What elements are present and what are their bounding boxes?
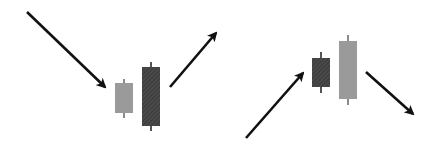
candle-body	[312, 58, 330, 87]
bullish-engulfing-pattern	[27, 12, 216, 131]
candle-body	[142, 67, 160, 126]
dark-candle	[142, 62, 160, 131]
candlestick-patterns-diagram	[0, 0, 441, 150]
arrow-down-right-icon	[366, 72, 413, 114]
dark-candle	[312, 52, 330, 93]
candle-body	[115, 83, 133, 113]
arrow-up-right-icon	[170, 33, 216, 87]
arrow-up-right-icon	[246, 73, 303, 138]
candle-body	[339, 41, 357, 99]
light-candle	[339, 35, 357, 105]
arrow-down-right-icon	[27, 12, 105, 87]
light-candle	[115, 79, 133, 118]
bearish-engulfing-pattern	[246, 35, 413, 138]
diagram-canvas	[0, 0, 441, 150]
